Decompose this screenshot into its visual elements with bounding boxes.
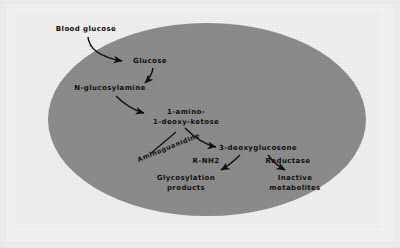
node-label-glycosylation-products: Glycosylation products (146, 173, 226, 193)
edge-label-reductase: Reductase (262, 157, 314, 166)
node-label-3-deoxyglucosone: 3-deoxyglucosone (208, 144, 308, 153)
node-label-blood-glucose: Blood glucose (52, 25, 120, 34)
node-label-glucose: Glucose (124, 57, 176, 66)
node-label-n-glucosylamine: N-glucosylamine (62, 84, 158, 93)
node-label-amadori-product: 1-amino- 1-deoxy-ketose (142, 107, 230, 127)
edge-label-r-nh2: R-NH2 (186, 157, 226, 166)
figure-canvas: Blood glucose Glucose N-glucosylamine 1-… (0, 0, 400, 248)
node-label-inactive-metabolites: Inactive metabolites (258, 173, 332, 193)
